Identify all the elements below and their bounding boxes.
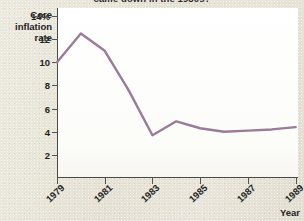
x-axis-title: Year <box>280 207 300 218</box>
chart-figure: came down in the 1980s? Core inflation r… <box>0 0 304 221</box>
data-series-layer <box>0 0 304 221</box>
core-inflation-line <box>57 33 296 135</box>
